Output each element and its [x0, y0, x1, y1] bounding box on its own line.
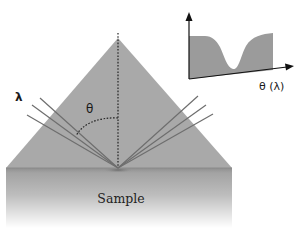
wavelength-label: λ	[15, 90, 23, 104]
inset-x-axis-label: θ (λ)	[259, 80, 284, 93]
sample-label: Sample	[97, 191, 144, 206]
inset-x-arrow-icon	[285, 64, 294, 71]
inset-y-arrow-icon	[186, 12, 193, 21]
spr-diagram: λ θ Sample θ (λ)	[0, 0, 303, 230]
inset-dip-curve	[189, 33, 273, 79]
angle-label: θ	[86, 102, 93, 116]
inset-reflectivity-chart: θ (λ)	[186, 12, 295, 93]
